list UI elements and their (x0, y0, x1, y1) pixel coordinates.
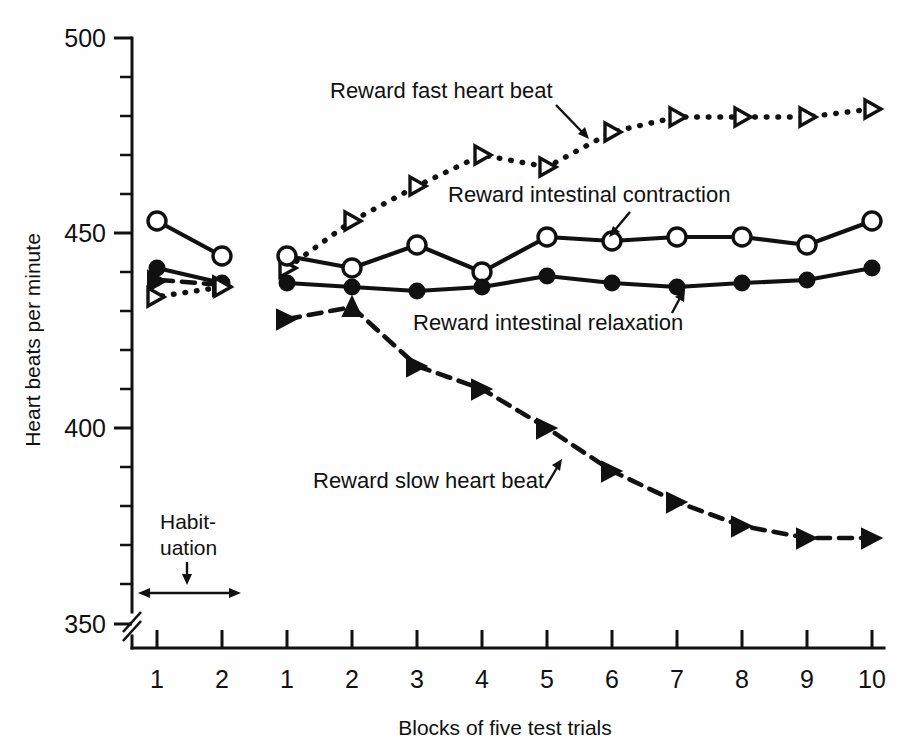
chart-figure: 500 450 400 350 Heart beats per minute 1… (0, 0, 901, 755)
data-point-marker (475, 280, 490, 295)
x-tick-label-test-4: 4 (475, 665, 489, 693)
x-tick-label-test-2: 2 (345, 665, 359, 693)
y-tick-label-350: 350 (64, 610, 106, 638)
y-minor-ticks (120, 77, 132, 584)
data-point-marker (735, 276, 750, 291)
series-intestinal-contraction-habituation (148, 212, 231, 265)
series-intestinal-relaxation (280, 261, 880, 299)
data-point-marker (148, 288, 164, 306)
annotation-label-fast: Reward fast heart beat (330, 78, 553, 103)
annotation-slow-heart-beat: Reward slow heart beat (313, 459, 562, 493)
data-point-marker (343, 259, 361, 277)
data-point-marker (800, 108, 816, 126)
data-point-marker (668, 228, 686, 246)
data-point-marker (345, 212, 361, 230)
data-point-marker (798, 236, 816, 254)
data-point-marker (345, 280, 360, 295)
data-point-marker (602, 462, 621, 481)
data-point-marker (473, 263, 491, 281)
x-tick-label-test-1: 1 (280, 665, 294, 693)
data-point-marker (797, 529, 816, 548)
data-point-marker (862, 529, 881, 548)
data-point-marker (735, 108, 751, 126)
x-tick-label-hab-1: 1 (150, 665, 164, 693)
x-tick-label-test-7: 7 (670, 665, 684, 693)
x-tick-label-test-9: 9 (800, 665, 814, 693)
annotation-intestinal-contraction: Reward intestinal contraction (448, 182, 730, 237)
x-tick-label-test-10: 10 (858, 665, 886, 693)
data-point-marker (540, 269, 555, 284)
habituation-annotation: Habit- uation (138, 510, 241, 598)
x-tick-label-test-5: 5 (540, 665, 554, 693)
y-axis-title: Heart beats per minute (21, 233, 44, 447)
habituation-down-arrow-icon (182, 562, 192, 585)
habituation-label-line2: uation (160, 536, 217, 559)
data-point-marker (537, 419, 556, 438)
data-point-marker (865, 261, 880, 276)
data-point-marker (407, 357, 426, 376)
data-point-marker (213, 247, 231, 265)
data-point-marker (800, 273, 815, 288)
data-point-marker (605, 276, 620, 291)
data-point-marker (865, 100, 881, 118)
y-major-ticks (114, 38, 132, 624)
data-point-marker (667, 493, 686, 512)
annotation-label-slow: Reward slow heart beat (313, 468, 544, 493)
x-tick-label-hab-2: 2 (215, 665, 229, 693)
data-point-marker (410, 284, 425, 299)
data-point-marker (408, 236, 426, 254)
annotation-fast-heart-beat: Reward fast heart beat (330, 78, 589, 139)
data-point-marker (148, 212, 166, 230)
data-point-marker (670, 108, 686, 126)
x-axis-title: Blocks of five test trials (398, 716, 612, 739)
data-point-marker (278, 247, 296, 265)
x-ticks (157, 630, 872, 648)
annotation-label-relaxation: Reward intestinal relaxation (413, 310, 683, 335)
chart-canvas: 500 450 400 350 Heart beats per minute 1… (0, 0, 901, 755)
data-point-marker (605, 123, 621, 141)
habituation-label-line1: Habit- (160, 510, 216, 533)
x-tick-label-test-3: 3 (410, 665, 424, 693)
x-tick-label-test-8: 8 (735, 665, 749, 693)
y-axis (123, 38, 141, 648)
data-point-marker (277, 310, 296, 329)
series-intestinal-contraction (278, 212, 881, 281)
data-point-marker (472, 380, 491, 399)
y-tick-label-450: 450 (64, 219, 106, 247)
annotation-intestinal-relaxation: Reward intestinal relaxation (413, 290, 685, 335)
y-tick-label-400: 400 (64, 414, 106, 442)
data-point-marker (410, 177, 426, 195)
data-point-marker (475, 146, 491, 164)
data-point-marker (343, 297, 361, 316)
data-point-marker (732, 517, 751, 536)
annotation-label-contraction: Reward intestinal contraction (448, 182, 730, 207)
data-point-marker (538, 228, 556, 246)
data-point-marker (863, 212, 881, 230)
habituation-span-arrow-icon (138, 588, 241, 598)
y-tick-label-500: 500 (64, 24, 106, 52)
x-tick-label-test-6: 6 (605, 665, 619, 693)
data-point-marker (733, 228, 751, 246)
data-point-marker (280, 276, 295, 291)
